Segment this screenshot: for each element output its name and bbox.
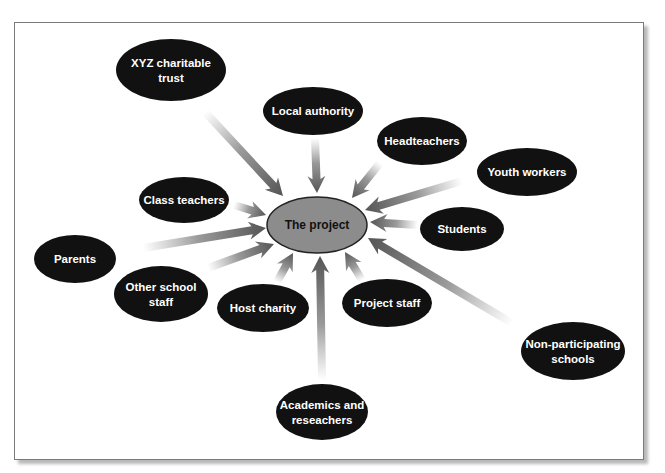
node-students: Students [420,207,504,251]
node-label: Class teachers [143,194,224,206]
node-label: trust [158,72,184,84]
node-label: Host charity [230,302,297,314]
center-node: The project [267,197,367,253]
node-parents: Parents [34,235,116,283]
node-non-participating-schools: Non-participatingschools [521,322,625,380]
arrow-headteachers [352,161,383,199]
node-label: schools [551,353,594,365]
node-host-charity: Host charity [217,284,309,332]
node-label: Non-participating [525,338,620,350]
node-class-teachers: Class teachers [139,177,229,223]
arrow-class-teachers [233,201,266,218]
arrow-parents [142,222,266,252]
center-label: The project [285,218,350,232]
arrow-academics-and-reseachers [311,256,329,380]
node-other-school-staff: Other schoolstaff [114,266,208,322]
node-xyz-charitable-trust: XYZ charitabletrust [116,39,226,101]
node-label: Students [437,223,486,235]
arrow-students [370,214,418,232]
node-label: Parents [54,253,96,265]
node-label: XYZ charitable [131,57,211,69]
node-headteachers: Headteachers [377,117,467,165]
stakeholder-diagram: XYZ charitabletrustLocal authorityHeadte… [0,0,665,473]
node-label: Other school [126,281,197,293]
node-label: Project staff [354,297,421,309]
node-label: staff [149,296,173,308]
node-label: reseachers [292,414,353,426]
node-label: Local authority [272,105,355,117]
node-project-staff: Project staff [342,279,432,327]
node-local-authority: Local authority [263,87,363,135]
node-academics-and-reseachers: Academics andreseachers [276,384,368,440]
node-label: Academics and [280,399,364,411]
node-label: Youth workers [487,166,566,178]
node-ellipse [276,384,368,440]
node-ellipse [114,266,208,322]
arrow-project-staff [345,252,365,282]
node-youth-workers: Youth workers [477,148,577,196]
arrow-other-school-staff [207,241,274,271]
node-ellipse [521,322,625,380]
arrow-host-charity [274,253,294,284]
arrow-local-authority [307,138,325,193]
node-label: Headteachers [384,135,459,147]
node-ellipse [116,39,226,101]
